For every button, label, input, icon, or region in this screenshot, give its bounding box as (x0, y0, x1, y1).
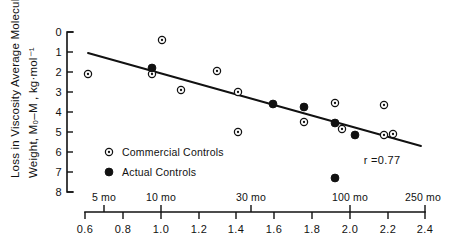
y-tick-label: 3 (55, 86, 62, 98)
y-axis-ticks (67, 32, 73, 192)
data-point-open (158, 36, 165, 43)
data-points-commercial-controls (84, 36, 396, 138)
x-axis-month-ticks (104, 205, 425, 212)
data-point-open (300, 118, 307, 125)
x-tick-label: 1.8 (304, 223, 321, 235)
x-tick-label: 2.2 (380, 223, 397, 235)
x-tick-label: 2.0 (342, 223, 359, 235)
legend: Commercial Controls Actual Controls (105, 146, 224, 178)
x-axis-numeric-ticks (85, 212, 425, 219)
y-axis-title-line1: Loss in Viscosity Average Molecular (9, 0, 21, 178)
x-axis: 0.6 0.8 1.0 1.2 1.4 1.6 1.8 2.0 2.2 2.4 … (77, 191, 441, 235)
x-tick-label: 0.6 (77, 223, 94, 235)
data-point-open (177, 86, 184, 93)
data-points-actual-controls (148, 64, 359, 182)
month-tick-label: 250 mo (405, 191, 441, 203)
y-tick-label: 2 (55, 66, 62, 78)
y-tick-label: 5 (55, 126, 62, 138)
x-tick-label: 1.6 (266, 223, 283, 235)
month-tick-label: 30 mo (236, 191, 266, 203)
open-circle-dot-icon (105, 148, 112, 155)
data-point-filled (351, 131, 359, 139)
x-tick-label: 1.4 (228, 223, 245, 235)
correlation-annotation: r =0.77 (364, 154, 401, 166)
y-tick-label: 0 (55, 26, 62, 38)
x-tick-label: 1.2 (191, 223, 208, 235)
data-point-open (338, 125, 345, 132)
y-axis: 0 1 2 3 4 5 6 7 8 (55, 26, 73, 198)
data-point-filled (331, 174, 339, 182)
x-tick-label: 1.0 (153, 223, 170, 235)
data-point-open (84, 70, 91, 77)
data-point-open (380, 101, 387, 108)
legend-item-actual-controls: Actual Controls (105, 166, 196, 178)
trend-line (88, 53, 421, 146)
filled-circle-icon (105, 168, 113, 176)
data-point-filled (331, 119, 339, 127)
y-tick-label: 4 (55, 106, 62, 118)
legend-label-actual-controls: Actual Controls (122, 166, 196, 178)
y-tick-label: 7 (55, 166, 62, 178)
data-point-open (234, 128, 241, 135)
y-tick-label: 6 (55, 146, 62, 158)
x-tick-label: 0.8 (115, 223, 132, 235)
month-tick-label: 100 mo (332, 191, 368, 203)
legend-item-commercial-controls: Commercial Controls (105, 146, 223, 158)
data-point-open (331, 99, 338, 106)
month-tick-label: 10 mo (146, 191, 176, 203)
y-axis-tick-labels: 0 1 2 3 4 5 6 7 8 (55, 26, 62, 198)
data-point-open (380, 131, 387, 138)
data-point-filled (269, 100, 277, 108)
x-axis-tick-labels: 0.6 0.8 1.0 1.2 1.4 1.6 1.8 2.0 2.2 2.4 (77, 223, 434, 235)
y-axis-title: Loss in Viscosity Average Molecular Weig… (9, 0, 39, 178)
scatter-plot-canvas: Loss in Viscosity Average Molecular Weig… (0, 0, 459, 248)
x-tick-label: 2.4 (417, 223, 434, 235)
y-tick-label: 8 (55, 186, 62, 198)
chart-figure: Loss in Viscosity Average Molecular Weig… (0, 0, 459, 248)
legend-label-commercial-controls: Commercial Controls (122, 146, 224, 158)
month-tick-label: 5 mo (92, 191, 116, 203)
x-axis-month-labels: 5 mo 10 mo 30 mo 100 mo 250 mo (92, 191, 441, 203)
data-point-open (213, 67, 220, 74)
data-point-filled (148, 64, 156, 72)
data-point-open (389, 130, 396, 137)
data-point-open (234, 88, 241, 95)
y-axis-title-line2: Weight, M₀–M , kg·mol⁻¹ (27, 47, 39, 178)
y-tick-label: 1 (55, 46, 62, 58)
data-point-filled (300, 103, 308, 111)
